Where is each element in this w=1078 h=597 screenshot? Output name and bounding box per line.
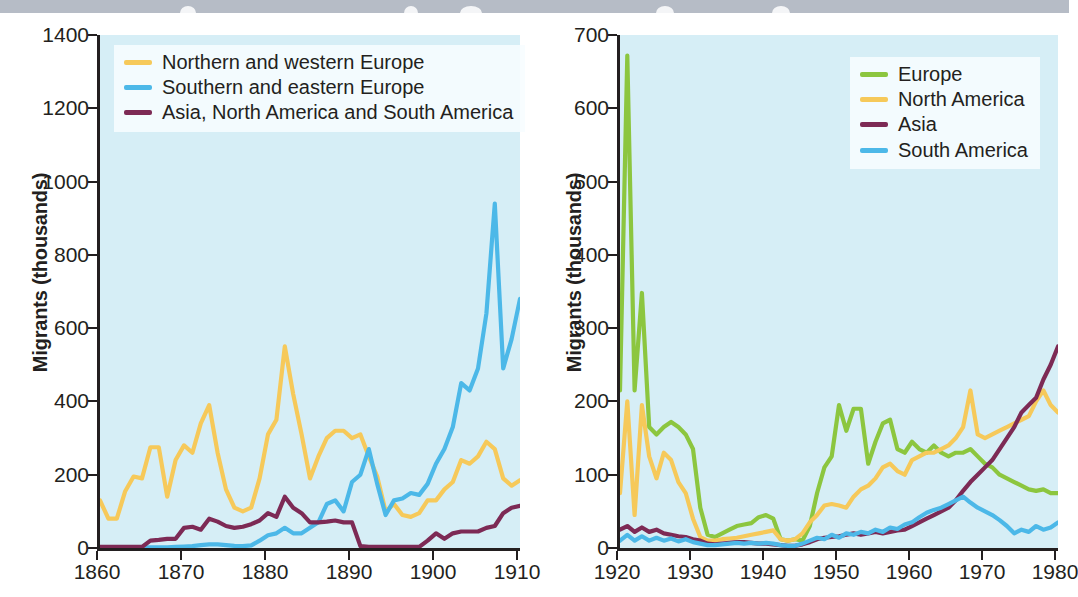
y-tick-mark xyxy=(88,254,97,256)
y-tick-label: 400 xyxy=(574,243,609,267)
x-tick-label: 1980 xyxy=(1032,560,1078,584)
x-tick-mark xyxy=(981,551,983,560)
legend-swatch xyxy=(860,148,888,153)
y-axis-ticks-left: 0200400600800100012001400 xyxy=(27,13,89,597)
legend-label: Northern and western Europe xyxy=(162,51,424,74)
legend-swatch xyxy=(860,122,888,127)
y-tick-mark xyxy=(88,400,97,402)
y-tick-mark xyxy=(88,327,97,329)
y-tick-label: 600 xyxy=(574,96,609,120)
legend-label: Asia xyxy=(898,113,937,136)
y-tick-label: 200 xyxy=(574,389,609,413)
legend-row[interactable]: Northern and western Europe xyxy=(124,51,513,74)
x-tick-mark xyxy=(689,551,691,560)
legend-row[interactable]: North America xyxy=(860,88,1028,111)
x-tick-label: 1900 xyxy=(410,560,457,584)
y-tick-mark xyxy=(608,34,617,36)
chart-panel-right: Migrants (thousands) 0100200300400500600… xyxy=(534,13,1069,597)
y-tick-mark xyxy=(88,34,97,36)
charts-container: Migrants (thousands) 0200400600800100012… xyxy=(0,13,1069,597)
x-axis-ticks-right: 1920193019401950196019701980 xyxy=(617,560,1055,597)
x-tick-label: 1930 xyxy=(667,560,714,584)
x-tick-mark xyxy=(264,551,266,560)
y-tick-label: 400 xyxy=(54,389,89,413)
series-line xyxy=(100,204,520,548)
x-tick-mark xyxy=(432,551,434,560)
legend-label: Asia, North America and South America xyxy=(162,101,513,124)
y-tick-label: 300 xyxy=(574,316,609,340)
cropped-title-banner xyxy=(0,0,1069,13)
y-tick-mark xyxy=(88,547,97,549)
plot-area-right: EuropeNorth AmericaAsiaSouth America xyxy=(617,35,1058,551)
legend-row[interactable]: Southern and eastern Europe xyxy=(124,76,513,99)
x-tick-label: 1860 xyxy=(74,560,121,584)
x-tick-mark xyxy=(908,551,910,560)
y-tick-mark xyxy=(608,181,617,183)
y-tick-mark xyxy=(88,181,97,183)
x-tick-label: 1870 xyxy=(158,560,205,584)
series-line xyxy=(100,346,520,518)
legend-label: Southern and eastern Europe xyxy=(162,76,424,99)
y-tick-mark xyxy=(608,327,617,329)
x-axis-ticks-left: 186018701880189019001910 xyxy=(97,560,517,597)
x-tick-mark xyxy=(762,551,764,560)
legend-swatch xyxy=(124,85,152,90)
legend-row[interactable]: Europe xyxy=(860,63,1028,86)
x-tick-label: 1970 xyxy=(959,560,1006,584)
x-tick-label: 1960 xyxy=(886,560,933,584)
legend-swatch xyxy=(860,97,888,102)
legend-right: EuropeNorth AmericaAsiaSouth America xyxy=(850,57,1040,169)
y-tick-label: 800 xyxy=(54,243,89,267)
y-tick-mark xyxy=(88,107,97,109)
legend-left: Northern and western EuropeSouthern and … xyxy=(114,45,525,132)
x-tick-mark xyxy=(180,551,182,560)
y-tick-label: 700 xyxy=(574,23,609,47)
x-tick-mark xyxy=(616,551,618,560)
legend-label: Europe xyxy=(898,63,963,86)
x-tick-mark xyxy=(96,551,98,560)
x-tick-label: 1950 xyxy=(813,560,860,584)
y-tick-mark xyxy=(608,254,617,256)
y-tick-label: 1200 xyxy=(42,96,89,120)
x-tick-label: 1880 xyxy=(242,560,289,584)
y-tick-mark xyxy=(608,400,617,402)
x-tick-label: 1890 xyxy=(326,560,373,584)
legend-swatch xyxy=(860,72,888,77)
y-tick-mark xyxy=(608,474,617,476)
x-tick-label: 1920 xyxy=(594,560,641,584)
legend-row[interactable]: Asia, North America and South America xyxy=(124,101,513,124)
chart-panel-left: Migrants (thousands) 0200400600800100012… xyxy=(0,13,534,597)
series-line xyxy=(100,497,520,547)
legend-label: North America xyxy=(898,88,1025,111)
x-tick-mark xyxy=(348,551,350,560)
y-tick-label: 500 xyxy=(574,170,609,194)
y-tick-label: 1000 xyxy=(42,170,89,194)
legend-swatch xyxy=(124,110,152,115)
y-tick-mark xyxy=(608,107,617,109)
y-tick-mark xyxy=(608,547,617,549)
legend-row[interactable]: South America xyxy=(860,139,1028,162)
y-tick-label: 1400 xyxy=(42,23,89,47)
y-tick-label: 100 xyxy=(574,463,609,487)
y-axis-ticks-right: 0100200300400500600700 xyxy=(547,13,609,597)
x-tick-mark xyxy=(516,551,518,560)
x-tick-label: 1940 xyxy=(740,560,787,584)
y-tick-label: 600 xyxy=(54,316,89,340)
y-tick-label: 200 xyxy=(54,463,89,487)
legend-label: South America xyxy=(898,139,1028,162)
legend-row[interactable]: Asia xyxy=(860,113,1028,136)
plot-area-left: Northern and western EuropeSouthern and … xyxy=(97,35,520,551)
legend-swatch xyxy=(124,60,152,65)
x-tick-mark xyxy=(835,551,837,560)
x-tick-mark xyxy=(1054,551,1056,560)
y-tick-mark xyxy=(88,474,97,476)
